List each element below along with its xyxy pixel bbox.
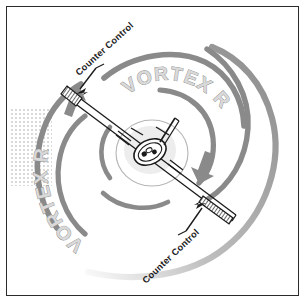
- vortex-roll-figure: VORTEX ROLL VORTEX ROLL Counter Control …: [0, 0, 305, 302]
- vortex-spiral-arm-outer: [88, 47, 275, 277]
- counter-control-bottom-leader: [186, 208, 202, 231]
- counter-control-bottom-tick: [178, 231, 186, 235]
- counter-control-top-leader: [80, 68, 96, 89]
- vortex-spiral-arm-left-inner: [58, 116, 85, 234]
- vortex-spiral-arm-core-bottom: [103, 193, 168, 208]
- vortex-spiral-arm-core-left: [101, 127, 110, 178]
- diagram-canvas: [0, 0, 305, 302]
- counter-control-top-tick: [96, 64, 104, 68]
